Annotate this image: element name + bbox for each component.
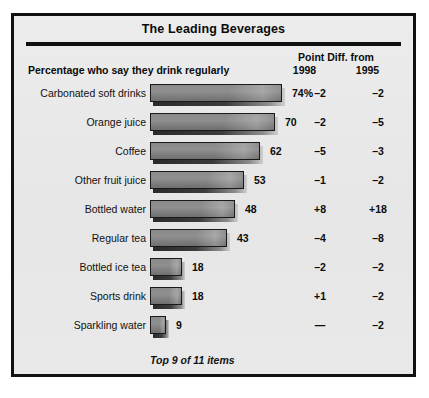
- bar-value-label: 43: [237, 230, 249, 246]
- column-header-1995: 1995: [336, 64, 399, 76]
- bar-graphic: [150, 113, 275, 131]
- footnote: Top 9 of 11 items: [150, 354, 235, 366]
- bar-highlight: [151, 114, 274, 130]
- panel-title-text: The Leading Beverages: [142, 22, 285, 36]
- title-divider: [26, 42, 401, 46]
- column-group-header: Point Diff. from: [273, 51, 399, 63]
- bar-row-label: Bottled ice tea: [14, 258, 146, 276]
- bar-value-label: 18: [192, 288, 204, 304]
- column-header-1998: 1998: [273, 64, 336, 76]
- bar-fill: [150, 171, 244, 189]
- panel-title: The Leading Beverages: [14, 16, 413, 42]
- diff-1995-value: –2: [357, 288, 399, 304]
- bar-row: Regular tea43–4–8: [14, 229, 413, 258]
- bar-fill: [150, 113, 275, 131]
- diff-1995-value: –2: [357, 172, 399, 188]
- bar-row-label: Orange juice: [14, 113, 146, 131]
- bar-highlight: [151, 85, 281, 101]
- bar-highlight: [151, 172, 243, 188]
- bar-highlight: [151, 230, 226, 246]
- bar-graphic: [150, 84, 282, 102]
- bar-track: [150, 287, 300, 309]
- chart-subtitle: Percentage who say they drink regularly: [28, 64, 229, 76]
- bar-track: [150, 258, 300, 280]
- bar-row: Carbonated soft drinks74%–2–2: [14, 84, 413, 113]
- bar-fill: [150, 229, 227, 247]
- bar-graphic: [150, 171, 244, 189]
- bar-highlight: [151, 201, 234, 217]
- bar-row-label: Other fruit juice: [14, 171, 146, 189]
- bar-fill: [150, 287, 182, 305]
- diff-1998-value: +1: [299, 288, 341, 304]
- diff-1998-value: –2: [299, 85, 341, 101]
- bar-highlight: [151, 288, 181, 304]
- diff-1998-value: –2: [299, 259, 341, 275]
- bar-graphic: [150, 142, 260, 160]
- bar-row-label: Regular tea: [14, 229, 146, 247]
- bar-graphic: [150, 316, 166, 334]
- column-year-headers: 1998 1995: [273, 64, 399, 76]
- bar-track: [150, 113, 300, 135]
- bar-graphic: [150, 200, 235, 218]
- bar-highlight: [151, 317, 165, 333]
- bar-track: [150, 171, 300, 193]
- bar-fill: [150, 142, 260, 160]
- bar-fill: [150, 84, 282, 102]
- diff-1998-value: –2: [299, 114, 341, 130]
- bar-value-label: 62: [270, 143, 282, 159]
- bar-value-label: 48: [245, 201, 257, 217]
- bar-row: Orange juice70–2–5: [14, 113, 413, 142]
- diff-1995-value: +18: [357, 201, 399, 217]
- bar-graphic: [150, 287, 182, 305]
- bar-fill: [150, 258, 182, 276]
- diff-1995-value: –3: [357, 143, 399, 159]
- diff-1998-value: –5: [299, 143, 341, 159]
- bar-value-label: 18: [192, 259, 204, 275]
- bar-row: Sparkling water9—–2: [14, 316, 413, 345]
- bar-highlight: [151, 143, 259, 159]
- bar-row-label: Sparkling water: [14, 316, 146, 334]
- bar-row: Sports drink18+1–2: [14, 287, 413, 316]
- bar-value-label: 53: [254, 172, 266, 188]
- bar-row-label: Coffee: [14, 142, 146, 160]
- bar-row-label: Bottled water: [14, 200, 146, 218]
- diff-1998-value: –1: [299, 172, 341, 188]
- bar-graphic: [150, 229, 227, 247]
- bar-row: Coffee62–5–3: [14, 142, 413, 171]
- bar-row: Bottled water48+8+18: [14, 200, 413, 229]
- bar-rows: Carbonated soft drinks74%–2–2Orange juic…: [14, 84, 413, 345]
- bar-row-label: Sports drink: [14, 287, 146, 305]
- diff-1998-value: –4: [299, 230, 341, 246]
- chart-panel: The Leading Beverages Point Diff. from 1…: [11, 13, 416, 377]
- bar-value-label: 70: [285, 114, 297, 130]
- diff-1995-value: –2: [357, 259, 399, 275]
- bar-track: [150, 229, 300, 251]
- bar-track: [150, 316, 300, 338]
- diff-1998-value: —: [299, 317, 341, 333]
- bar-value-label: 9: [176, 317, 182, 333]
- bar-row: Bottled ice tea18–2–2: [14, 258, 413, 287]
- bar-row-label: Carbonated soft drinks: [14, 84, 146, 102]
- bar-track: [150, 84, 300, 106]
- bar-highlight: [151, 259, 181, 275]
- diff-1998-value: +8: [299, 201, 341, 217]
- bar-graphic: [150, 258, 182, 276]
- bar-track: [150, 200, 300, 222]
- diff-1995-value: –2: [357, 85, 399, 101]
- bar-row: Other fruit juice53–1–2: [14, 171, 413, 200]
- page-canvas: The Leading Beverages Point Diff. from 1…: [0, 0, 429, 398]
- diff-1995-value: –5: [357, 114, 399, 130]
- diff-1995-value: –8: [357, 230, 399, 246]
- bar-fill: [150, 316, 166, 334]
- diff-1995-value: –2: [357, 317, 399, 333]
- bar-fill: [150, 200, 235, 218]
